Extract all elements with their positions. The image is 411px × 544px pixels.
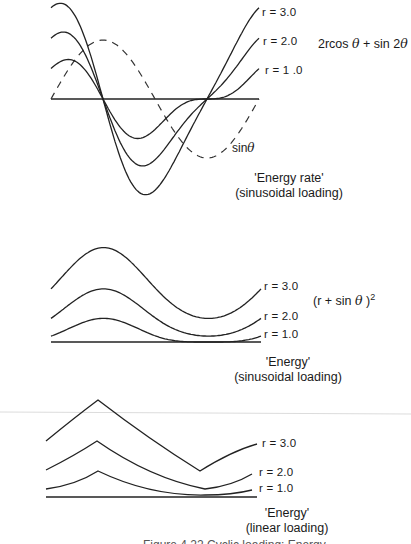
figure-caption: Figure 4.22 Cyclic loading: Energy <box>143 538 326 544</box>
bottom-label-r3: r = 3.0 <box>262 437 296 449</box>
theta-symbol: θ <box>247 141 254 155</box>
middle-label-r1: r = 1.0 <box>264 328 298 340</box>
middle-curve-r1 <box>51 318 261 342</box>
middle-label-r3: r = 3.0 <box>264 280 298 292</box>
top-formula: 2rcos θ + sin 2θ <box>318 36 408 51</box>
middle-title: 'Energy' (sinusoidal loading) <box>228 355 348 385</box>
bottom-label-r2: r = 2.0 <box>259 466 293 478</box>
panel-energy-sinusoidal <box>51 248 261 342</box>
top-label-r1: r = 1 .0 <box>265 64 303 76</box>
panel-energy-linear <box>46 400 257 497</box>
formula-part: 2rcos <box>318 37 352 51</box>
exponent: 2 <box>370 292 375 302</box>
middle-curve-r2 <box>51 289 261 336</box>
figure-canvas <box>0 0 411 544</box>
bottom-title-text: 'Energy' <box>227 506 347 521</box>
middle-subtitle-text: (sinusoidal loading) <box>228 370 348 385</box>
sin-text: sin <box>232 141 247 155</box>
bottom-label-r1: r = 1.0 <box>259 482 293 494</box>
theta-symbol: θ <box>352 36 360 51</box>
bottom-subtitle-text: (linear loading) <box>227 521 347 536</box>
bottom-title: 'Energy' (linear loading) <box>227 506 347 536</box>
middle-title-text: 'Energy' <box>228 355 348 370</box>
middle-curve-r3 <box>51 248 261 319</box>
top-title-text: 'Energy rate' <box>229 171 349 186</box>
theta-symbol: θ <box>355 293 363 308</box>
formula-part: + sin 2 <box>360 37 401 51</box>
bottom-curve-r3 <box>46 400 257 471</box>
middle-formula: (r + sin θ )2 <box>313 292 375 308</box>
bottom-curve-r1 <box>46 471 252 495</box>
theta-symbol: θ <box>400 36 408 51</box>
top-label-r3: r = 3.0 <box>262 6 296 18</box>
top-title: 'Energy rate' (sinusoidal loading) <box>229 171 349 201</box>
scan-line <box>0 412 411 414</box>
panel-energy-rate <box>51 3 259 194</box>
sin-theta-label: sinθ <box>232 141 255 155</box>
middle-label-r2: r = 2.0 <box>264 310 298 322</box>
top-subtitle-text: (sinusoidal loading) <box>229 186 349 201</box>
top-label-r2: r = 2.0 <box>263 35 297 47</box>
formula-part: (r + sin <box>313 294 355 308</box>
